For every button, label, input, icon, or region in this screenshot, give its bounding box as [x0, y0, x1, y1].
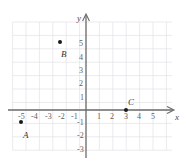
- x-tick-2: 2: [110, 113, 114, 121]
- x-tick-5: 5: [151, 113, 155, 121]
- data-point-label-C: C: [128, 98, 134, 107]
- x-tick--3: -3: [45, 113, 52, 121]
- data-point-label-A: A: [23, 131, 29, 140]
- coordinate-plane-figure: y x -5 -4 -3 -2 -1 1 2 3 4 5 5 4 3 2 1 -…: [0, 0, 186, 168]
- x-tick-4: 4: [137, 113, 141, 121]
- y-tick-5: 5: [79, 40, 83, 48]
- x-tick--2: -2: [58, 113, 65, 121]
- x-tick-1: 1: [97, 113, 101, 121]
- grid-lines: [13, 22, 172, 150]
- y-tick-3: 3: [79, 67, 83, 75]
- data-point-A: [19, 120, 23, 124]
- data-point-B: [58, 40, 62, 44]
- x-tick-3: 3: [124, 113, 128, 121]
- grid-and-axes: [0, 0, 186, 168]
- y-axis-label: y: [77, 14, 81, 23]
- x-axis-label: x: [175, 113, 179, 122]
- data-point-label-B: B: [61, 50, 67, 59]
- y-tick--3: -3: [77, 146, 84, 154]
- x-tick--4: -4: [31, 113, 38, 121]
- y-tick-2: 2: [79, 80, 83, 88]
- y-tick-4: 4: [79, 54, 83, 62]
- y-tick-1: 1: [80, 94, 84, 102]
- y-tick--2: -2: [77, 132, 84, 140]
- y-tick--1: -1: [77, 119, 84, 127]
- data-point-C: [124, 108, 128, 112]
